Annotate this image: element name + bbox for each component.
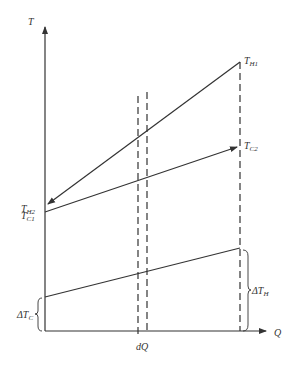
label-th1: TH1	[244, 55, 258, 68]
label-delta-tc: ΔTC	[16, 309, 33, 322]
label-delta-th: ΔTH	[251, 285, 269, 298]
delta-th-brace	[243, 250, 251, 331]
hot-stream-line	[48, 62, 240, 204]
delta-tc-brace	[35, 298, 42, 331]
heat-exchanger-diagram: T Q TH1 TH2 TC1 TC2 ΔTC ΔTH dQ	[0, 0, 295, 366]
x-axis-label: Q	[274, 327, 282, 338]
cold-stream-line	[45, 147, 237, 212]
y-axis-label: T	[28, 16, 35, 27]
delta-t-line	[45, 248, 240, 297]
label-tc2: TC2	[244, 140, 258, 153]
label-dq: dQ	[136, 341, 149, 352]
